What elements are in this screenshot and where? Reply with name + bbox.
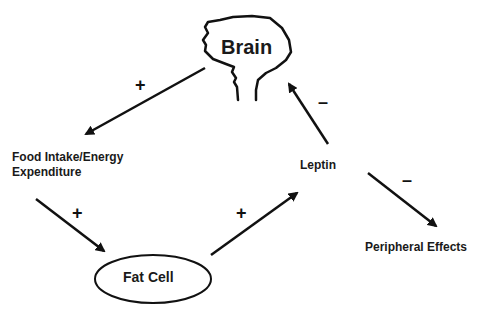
arrow-food-to-fatcell [36, 199, 104, 251]
sign-fatcell-to-leptin: + [236, 203, 247, 224]
arrow-fatcell-to-leptin [211, 193, 297, 255]
sign-food-to-fatcell: + [72, 203, 83, 224]
peripheral-effects-label: Peripheral Effects [365, 240, 467, 255]
food-intake-line2: Expenditure [12, 165, 123, 180]
brain-label: Brain [221, 35, 272, 60]
fat-cell-label: Fat Cell [123, 269, 174, 287]
sign-leptin-to-brain: – [318, 92, 328, 113]
food-intake-line1: Food Intake/Energy [12, 150, 123, 165]
sign-brain-to-food: + [135, 75, 146, 96]
leptin-label: Leptin [300, 158, 336, 173]
food-intake-label: Food Intake/Energy Expenditure [12, 150, 123, 180]
sign-leptin-to-peripheral: – [402, 170, 412, 191]
